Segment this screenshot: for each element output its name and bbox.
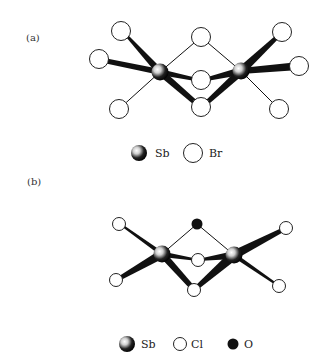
panel-b-structure: Sb Cl O [110,218,293,353]
cl-atom [188,284,201,297]
sb-legend-icon [119,336,135,352]
sb-atom [233,63,250,80]
legend-b: Sb Cl O [119,336,253,352]
cl-atom [280,222,293,235]
molecular-structure-diagram: Sb Br [0,0,318,360]
sb-atom [226,247,243,264]
sb-atom [152,64,169,81]
cl-atom [113,218,126,231]
br-atom [192,98,211,117]
br-atom [192,71,211,90]
br-atom [90,50,109,69]
sb-atom [154,246,171,263]
cl-atom [110,274,123,287]
legend-a: Sb Br [131,144,223,163]
cl-legend-icon [174,338,187,351]
br-atom [110,100,129,119]
legend-b-cl-label: Cl [191,338,203,351]
o-legend-icon [228,339,239,350]
br-atom [112,22,131,41]
legend-a-br-label: Br [209,147,223,160]
br-atom [273,23,292,42]
legend-b-o-label: O [244,338,253,351]
cl-atom [273,280,286,293]
o-atom [192,219,203,230]
br-atom [270,100,289,119]
legend-a-sb-label: Sb [155,147,170,160]
legend-b-sb-label: Sb [141,338,156,351]
sb-legend-icon [131,145,147,161]
br-atom [192,28,211,47]
panel-a-structure: Sb Br [90,22,309,163]
cl-atom [192,254,205,267]
br-legend-icon [184,144,203,163]
br-atom [290,57,309,76]
